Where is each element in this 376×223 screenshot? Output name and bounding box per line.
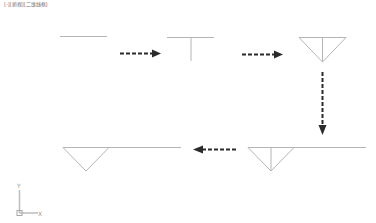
arrow-down-icon (319, 72, 327, 135)
arrow-right-icon (242, 51, 283, 59)
drawing-canvas[interactable]: Y X (0, 0, 376, 223)
arrow-right-icon (120, 50, 161, 58)
step-3-triangle[interactable] (299, 38, 346, 63)
ucs-y-label: Y (16, 182, 21, 189)
ucs-icon: Y X (16, 182, 42, 217)
step-4-triangle-extended[interactable] (248, 148, 366, 172)
step-5-triangle-final[interactable] (63, 148, 181, 172)
arrow-left-icon (193, 146, 238, 154)
model-viewport[interactable]: [-][俯视][二维线框] (0, 0, 376, 223)
step-2-t-shape[interactable] (167, 38, 214, 62)
ucs-x-label: X (38, 210, 42, 217)
